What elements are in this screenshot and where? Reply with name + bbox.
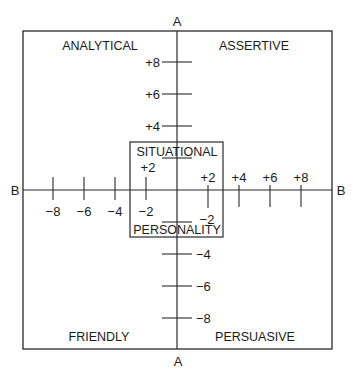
quadrant-label-analytical: ANALYTICAL <box>62 39 138 53</box>
horizontal-tick-label: +6 <box>263 170 278 185</box>
horizontal-tick-label: −6 <box>77 204 92 219</box>
vertical-tick-label: −6 <box>196 279 211 294</box>
horizontal-tick-label: −8 <box>46 204 61 219</box>
quadrant-label-persuasive: PERSUASIVE <box>215 330 295 344</box>
vertical-tick-label: +4 <box>145 119 160 134</box>
vertical-tick-label: +2 <box>141 160 156 175</box>
horizontal-tick-label: +8 <box>294 170 309 185</box>
horizontal-tick-label: +4 <box>232 170 247 185</box>
quadrant-label-friendly: FRIENDLY <box>69 330 131 344</box>
vertical-tick-label: +8 <box>145 55 160 70</box>
horizontal-tick-label: −4 <box>108 204 123 219</box>
horizontal-axis-label-right: B <box>337 183 346 198</box>
inner-box-label-situational: SITUATIONAL <box>136 145 217 159</box>
horizontal-axis-label-left: B <box>11 183 20 198</box>
horizontal-tick-label: −2 <box>139 204 154 219</box>
horizontal-tick-label: +2 <box>201 170 216 185</box>
vertical-tick-label: −8 <box>196 311 211 326</box>
vertical-tick-label: −2 <box>200 212 215 227</box>
quadrant-diagram: A A B B ANALYTICAL ASSERTIVE FRIENDLY PE… <box>0 0 353 380</box>
vertical-axis-label-bottom: A <box>174 354 183 369</box>
vertical-axis-label-top: A <box>173 14 182 29</box>
vertical-tick-label: +6 <box>145 87 160 102</box>
quadrant-label-assertive: ASSERTIVE <box>219 39 289 53</box>
vertical-tick-label: −4 <box>196 247 211 262</box>
